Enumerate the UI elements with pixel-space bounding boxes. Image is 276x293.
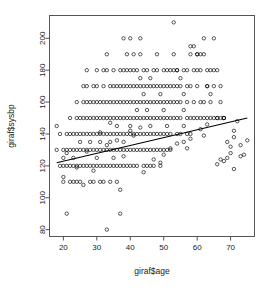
chart-canvas: 80100120140160180200 203040506070 giraf$… [0, 0, 276, 293]
x-tick-label: 50 [159, 243, 168, 252]
scatter-plot-figure: 80100120140160180200 203040506070 giraf$… [0, 0, 276, 293]
y-tick-label: 120 [38, 159, 47, 173]
x-axis-title: giraf$age [134, 266, 170, 276]
y-tick-label: 140 [38, 127, 47, 141]
y-tick-label: 80 [38, 225, 47, 234]
y-tick-label: 180 [38, 63, 47, 77]
y-tick-label: 100 [38, 191, 47, 205]
x-tick-label: 60 [193, 243, 202, 252]
x-tick-label: 30 [92, 243, 101, 252]
y-tick-label: 200 [38, 31, 47, 45]
y-tick-label: 160 [38, 95, 47, 109]
x-tick-label: 40 [126, 243, 135, 252]
y-axis-title: giraf$sysbp [6, 104, 16, 148]
x-tick-label: 20 [59, 243, 68, 252]
x-tick-label: 70 [226, 243, 235, 252]
